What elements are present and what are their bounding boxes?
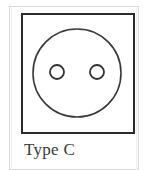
socket-diagram bbox=[21, 13, 135, 134]
figure-container: Type C bbox=[0, 0, 146, 170]
figure-caption: Type C bbox=[24, 139, 136, 163]
left-pin-hole bbox=[50, 65, 64, 79]
right-pin-hole bbox=[90, 65, 104, 79]
socket-recess-circle bbox=[33, 29, 121, 117]
